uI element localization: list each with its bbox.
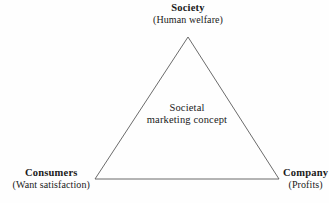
node-label-society: Society (Human welfare) (153, 2, 223, 25)
node-subtitle-company: (Profits) (283, 179, 328, 190)
diagram-canvas: Society (Human welfare) Consumers (Want … (0, 0, 329, 203)
center-caption-line-2: marketing concept (147, 114, 227, 126)
node-title-society: Society (153, 2, 223, 14)
node-subtitle-consumers: (Want satisfaction) (13, 179, 90, 190)
node-title-company: Company (283, 167, 328, 179)
node-label-company: Company (Profits) (283, 167, 328, 190)
node-title-consumers: Consumers (13, 167, 90, 179)
node-label-consumers: Consumers (Want satisfaction) (13, 167, 90, 190)
center-caption-line-1: Societal (147, 102, 227, 114)
node-subtitle-society: (Human welfare) (153, 14, 223, 25)
center-caption: Societal marketing concept (147, 102, 227, 127)
